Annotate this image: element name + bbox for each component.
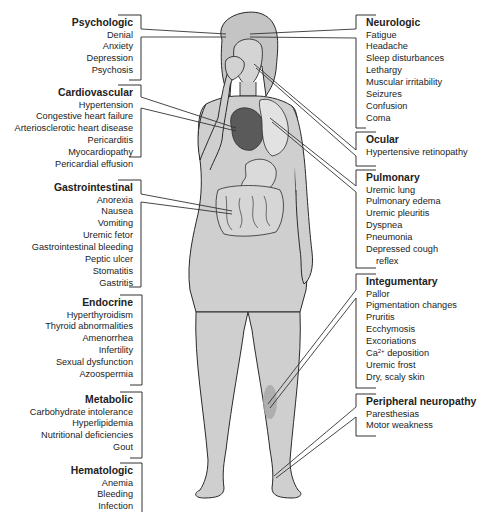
group-title: Pulmonary — [366, 172, 441, 185]
symptom-item: Nausea — [32, 206, 133, 218]
calcium-suffix: deposition — [385, 348, 429, 358]
symptom-item: Uremic frost — [366, 360, 457, 372]
symptom-item: Uremic lung — [366, 185, 441, 197]
group-neurologic: Neurologic Fatigue Headache Sleep distur… — [366, 17, 444, 125]
group-metabolic: Metabolic Carbohydrate intolerance Hyper… — [30, 394, 133, 454]
symptom-item: Uremic pleuritis — [366, 208, 441, 220]
symptom-item: Confusion — [366, 101, 444, 113]
symptom-item: Azoospermia — [45, 369, 133, 381]
symptom-item-calcium: Ca2+ deposition — [366, 348, 457, 360]
symptom-item: Sleep disturbances — [366, 53, 444, 65]
calcium-symbol: Ca — [366, 348, 378, 358]
group-title: Integumentary — [366, 276, 457, 289]
symptom-item: Fatigue — [366, 30, 444, 42]
symptom-item: Thyroid abnormalities — [45, 321, 133, 333]
group-title: Cardiovascular — [15, 87, 133, 100]
symptom-item: Pneumonia — [366, 232, 441, 244]
symptom-item: Muscular irritability — [366, 77, 444, 89]
group-hematologic: Hematologic Anemia Bleeding Infection — [71, 465, 133, 512]
symptom-item: Dry, scaly skin — [366, 372, 457, 384]
symptom-item: Anemia — [71, 478, 133, 490]
symptom-item: Peptic ulcer — [32, 254, 133, 266]
symptom-item: Myocardiopathy — [15, 147, 133, 159]
symptom-item: Bleeding — [71, 489, 133, 501]
symptom-item: Pigmentation changes — [366, 300, 457, 312]
calcium-charge: 2+ — [378, 348, 385, 354]
symptom-item: Infertility — [45, 345, 133, 357]
intestines — [216, 186, 283, 237]
symptom-item: Gastritis — [32, 278, 133, 290]
symptom-item: Hyperlipidemia — [30, 418, 133, 430]
symptom-item: Pericardial effusion — [15, 159, 133, 171]
symptom-item: Congestive heart failure — [15, 111, 133, 123]
symptom-item: Stomatitis — [32, 266, 133, 278]
symptom-item: Coma — [366, 113, 444, 125]
symptom-item: Lethargy — [366, 65, 444, 77]
group-title: Neurologic — [366, 17, 444, 30]
symptom-item: Psychosis — [72, 65, 133, 77]
symptom-item: Depressed cough — [366, 244, 441, 256]
symptom-item: Pulmonary edema — [366, 196, 441, 208]
symptom-item-continuation: reflex — [366, 256, 441, 268]
group-pulmonary: Pulmonary Uremic lung Pulmonary edema Ur… — [366, 172, 441, 268]
symptom-item: Carbohydrate intolerance — [30, 407, 133, 419]
symptom-item: Excoriations — [366, 336, 457, 348]
symptom-item: Hypertension — [15, 100, 133, 112]
group-gastrointestinal: Gastrointestinal Anorexia Nausea Vomitin… — [32, 182, 133, 290]
group-title: Psychologic — [72, 17, 133, 30]
symptom-item: Amenorrhea — [45, 333, 133, 345]
symptom-item: Ecchymosis — [366, 324, 457, 336]
symptom-item: Pallor — [366, 289, 457, 301]
symptom-item: Vomiting — [32, 218, 133, 230]
symptom-item: Hyperthyroidism — [45, 310, 133, 322]
symptom-item: Uremic fetor — [32, 230, 133, 242]
group-endocrine: Endocrine Hyperthyroidism Thyroid abnorm… — [45, 297, 133, 381]
symptom-item: Pruritis — [366, 312, 457, 324]
symptom-item: Headache — [366, 41, 444, 53]
symptom-item: Sexual dysfunction — [45, 357, 133, 369]
group-title: Peripheral neuropathy — [366, 396, 476, 409]
group-ocular: Ocular Hypertensive retinopathy — [366, 134, 468, 158]
group-title: Endocrine — [45, 297, 133, 310]
symptom-item: Pericarditis — [15, 135, 133, 147]
symptom-item: Denial — [72, 30, 133, 42]
group-title: Ocular — [366, 134, 468, 147]
symptom-item: Nutritional deficiencies — [30, 430, 133, 442]
group-peripheral-neuropathy: Peripheral neuropathy Paresthesias Motor… — [366, 396, 476, 432]
group-psychologic: Psychologic Denial Anxiety Depression Ps… — [72, 17, 133, 77]
symptom-item: Gastrointestinal bleeding — [32, 242, 133, 254]
group-title: Hematologic — [71, 465, 133, 478]
left-leg — [196, 312, 248, 498]
symptom-item: Motor weakness — [366, 420, 476, 432]
symptom-item: Depression — [72, 53, 133, 65]
symptom-item: Hypertensive retinopathy — [366, 147, 468, 159]
symptom-item: Dyspnea — [366, 220, 441, 232]
group-title: Metabolic — [30, 394, 133, 407]
group-cardiovascular: Cardiovascular Hypertension Congestive h… — [15, 87, 133, 171]
symptom-item: Anorexia — [32, 195, 133, 207]
group-title: Gastrointestinal — [32, 182, 133, 195]
symptom-item: Infection — [71, 501, 133, 512]
symptom-item: Gout — [30, 442, 133, 454]
symptom-item: Arteriosclerotic heart disease — [15, 123, 133, 135]
symptom-item: Anxiety — [72, 41, 133, 53]
symptom-item: Seizures — [366, 89, 444, 101]
group-integumentary: Integumentary Pallor Pigmentation change… — [366, 276, 457, 384]
symptom-item: Paresthesias — [366, 409, 476, 421]
